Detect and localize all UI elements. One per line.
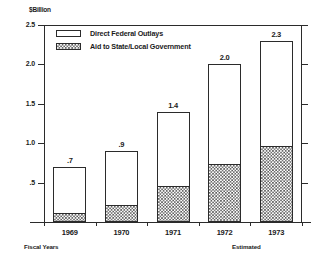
bar-value-label-1970: .9 [119, 140, 125, 149]
bar-value-label-1972: 2.0 [220, 53, 230, 62]
legend-label-direct-federal-outlays: Direct Federal Outlays [90, 29, 163, 38]
x-axis-tick [302, 222, 303, 226]
bar-segment-aid-1973 [261, 146, 292, 221]
plot-area: .7.91.42.02.3 [44, 25, 302, 222]
x-axis-tick [199, 222, 200, 226]
bar-value-label-1969: .7 [67, 156, 73, 165]
bar-1972 [208, 64, 241, 222]
bar-1970 [105, 151, 138, 222]
hatched-rectangle-swatch-icon [56, 43, 81, 50]
x-axis-label-1972: 1972 [217, 228, 233, 237]
bar-1973 [260, 41, 293, 222]
bar-segment-aid-1970 [106, 205, 137, 221]
y-axis-tick-label: 1.5 [17, 100, 35, 107]
y-axis-tick-label: .5 [17, 179, 35, 186]
y-axis-tick-label: 2.0 [17, 60, 35, 67]
y-axis-tick-label: 2.5 [17, 21, 35, 28]
x-axis-label-1971: 1971 [165, 228, 181, 237]
bar-segment-aid-1969 [54, 213, 85, 221]
y-axis-tick-right [301, 25, 308, 26]
x-axis-tick [96, 222, 97, 226]
bar-1971 [157, 112, 190, 222]
open-rectangle-swatch-icon [56, 30, 81, 37]
fiscal-years-caption: Fiscal Years [24, 243, 58, 250]
legend-item-aid-to-state-local-government: Aid to State/Local Government [56, 41, 191, 52]
bar-segment-aid-1971 [158, 186, 189, 221]
x-axis-tick [147, 222, 148, 226]
bar-1969 [53, 167, 86, 222]
chart-legend: Direct Federal Outlays Aid to State/Loca… [56, 28, 191, 54]
y-axis-tick-right [301, 64, 308, 65]
x-axis-tick [44, 222, 45, 226]
bar-value-label-1973: 2.3 [271, 30, 281, 39]
x-axis-label-1970: 1970 [113, 228, 129, 237]
x-axis-label-1969: 1969 [62, 228, 78, 237]
y-axis-tick-label: 1.0 [17, 139, 35, 146]
x-axis-tick [250, 222, 251, 226]
x-axis-label-1973: 1973 [268, 228, 284, 237]
y-axis-tick-right [301, 143, 308, 144]
legend-label-aid-to-state-local-government: Aid to State/Local Government [90, 42, 191, 51]
estimated-caption: Estimated [232, 243, 261, 250]
y-axis-tick-right [301, 183, 308, 184]
bar-value-label-1971: 1.4 [168, 101, 178, 110]
y-axis-unit-caption: $Billion [29, 6, 51, 13]
x-axis-line [30, 222, 311, 223]
bar-segment-aid-1972 [209, 164, 240, 221]
stacked-bar-chart: $Billion .51.01.52.02.5 .7.91.42.02.3 19… [0, 0, 319, 265]
y-axis-tick-right [301, 104, 308, 105]
legend-item-direct-federal-outlays: Direct Federal Outlays [56, 28, 191, 39]
